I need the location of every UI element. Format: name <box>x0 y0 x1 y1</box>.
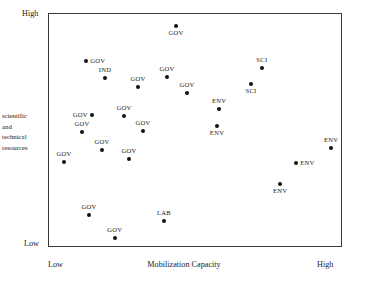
data-point-gov <box>136 85 141 90</box>
data-point-label: GOV <box>81 204 96 211</box>
data-point-label: ENV <box>210 130 224 137</box>
data-point-sci <box>249 82 254 87</box>
data-point-gov <box>113 236 118 241</box>
data-point-sci <box>260 66 265 71</box>
data-point-label: ENV <box>212 98 226 105</box>
y-axis-title-line-1: scientific <box>2 111 46 122</box>
y-axis-title-line-2: and <box>2 122 46 133</box>
data-point-gov <box>122 114 127 119</box>
data-point-label: GOV <box>169 30 184 37</box>
data-point-label: GOV <box>116 105 131 112</box>
data-point-label: ENV <box>324 137 338 144</box>
data-point-gov <box>100 148 105 153</box>
data-point-gov <box>165 75 170 80</box>
data-point-gov <box>80 130 85 135</box>
scatter-plot-figure: High Low scientific and technical resour… <box>0 0 368 285</box>
data-point-env <box>215 124 220 129</box>
y-axis-title: scientific and technical resources <box>2 111 46 153</box>
data-point-lab <box>162 219 167 224</box>
data-point-ind <box>103 76 108 81</box>
data-point-label: GOV <box>74 121 89 128</box>
data-point-gov <box>84 59 89 64</box>
data-point-label: GOV <box>136 120 151 127</box>
y-axis-title-line-4: resources <box>2 143 46 154</box>
data-point-label: ENV <box>300 160 314 167</box>
data-point-gov <box>185 91 190 96</box>
data-point-label: GOV <box>90 58 105 65</box>
data-point-label: SCI <box>256 57 267 64</box>
data-point-label: IND <box>99 67 111 74</box>
data-point-env <box>294 161 299 166</box>
data-point-env <box>217 107 222 112</box>
plot-area: GOVGOVINDGOVGOVGOVSCISCIENVENVGOVGOVGOVG… <box>48 13 342 247</box>
data-point-label: LAB <box>157 210 171 217</box>
data-point-env <box>278 182 283 187</box>
data-point-label: GOV <box>179 82 194 89</box>
x-axis-title: Mobilization Capacity <box>0 261 368 269</box>
data-point-gov <box>141 129 146 134</box>
data-point-label: GOV <box>107 227 122 234</box>
data-point-label: GOV <box>56 151 71 158</box>
y-axis-title-line-3: technical <box>2 132 46 143</box>
y-axis-tick-low: Low <box>24 240 39 248</box>
data-point-label: GOV <box>94 139 109 146</box>
data-point-label: GOV <box>73 112 88 119</box>
data-point-label: ENV <box>273 188 287 195</box>
data-point-gov <box>174 24 179 29</box>
data-point-env <box>329 146 334 151</box>
y-axis-tick-high: High <box>22 10 38 18</box>
data-point-label: SCI <box>245 88 256 95</box>
data-point-label: GOV <box>131 76 146 83</box>
data-point-gov <box>90 113 95 118</box>
data-point-gov <box>127 157 132 162</box>
data-point-gov <box>62 160 67 165</box>
data-point-gov <box>87 213 92 218</box>
data-point-label: GOV <box>121 148 136 155</box>
data-point-label: GOV <box>159 66 174 73</box>
